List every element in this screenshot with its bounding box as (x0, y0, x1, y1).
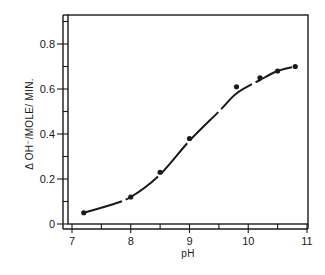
x-tick-label: 8 (128, 235, 134, 247)
data-point (187, 136, 192, 141)
x-tick-label: 9 (186, 235, 192, 247)
y-tick-label: 0.8 (40, 38, 55, 50)
data-point (275, 68, 280, 73)
x-tick-label: 10 (242, 235, 254, 247)
x-tick-label: 11 (301, 235, 312, 247)
data-point (257, 75, 262, 80)
data-point (158, 170, 163, 175)
y-tick-label: 0 (49, 218, 55, 230)
y-tick-label: 0.4 (40, 128, 55, 140)
data-point (234, 84, 239, 89)
y-axis-label: Δ OH⁻/MOLE/ MIN. (24, 78, 35, 170)
data-point (81, 210, 86, 215)
y-tick-label: 0.2 (40, 173, 55, 185)
data-points (81, 64, 298, 215)
x-axis-label: pH (181, 248, 194, 259)
y-tick-label: 0.6 (40, 83, 55, 95)
chart: 00.20.40.60.8 7891011 pH Δ OH⁻/MOLE/ MIN… (0, 0, 325, 275)
data-point (293, 64, 298, 69)
plot-frame (68, 15, 308, 224)
data-point (128, 194, 133, 199)
x-tick-label: 7 (69, 235, 75, 247)
y-axis-ticks: 00.20.40.60.8 (40, 22, 68, 231)
x-axis-ticks: 7891011 (69, 224, 313, 247)
